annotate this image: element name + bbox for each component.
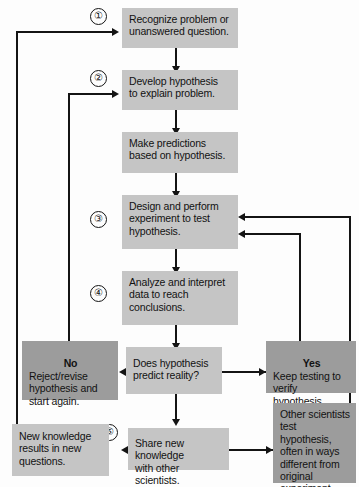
node-make-predictions: Make predictions based on hypothesis. — [122, 132, 238, 173]
node-share-knowledge: Share new knowledge with other scientist… — [128, 428, 229, 470]
step-number-2: ② — [90, 70, 107, 87]
node-analyze-data: Analyze and interpret data to reach conc… — [122, 271, 238, 325]
arrowhead-right-yes-box — [259, 368, 266, 376]
arrowhead-left-no-box — [119, 368, 126, 376]
node-outcome-no-header: No — [29, 357, 112, 369]
node-recognize-problem: Recognize problem or unanswered question… — [122, 8, 238, 48]
step-number-1: ① — [90, 8, 107, 25]
arrowhead-down-share — [172, 419, 180, 426]
arrowhead-right-hypothesis — [112, 90, 119, 98]
node-decision-predict-reality: Does hypothesis predict reality? — [126, 347, 222, 394]
feedback-line-vertical-yes-box — [299, 233, 301, 352]
step-number-3: ③ — [90, 211, 107, 228]
feedback-line-horizontal-yes-to-experiment — [245, 233, 301, 235]
node-new-knowledge: New knowledge results in new questions. — [12, 424, 109, 476]
node-outcome-yes: YesKeep testing to verify hypothesis. — [266, 341, 356, 393]
step-number-4: ④ — [90, 285, 107, 302]
node-design-experiment: Design and perform experiment to test hy… — [122, 195, 238, 249]
feedback-line-vertical-new-knowledge — [16, 31, 18, 432]
node-outcome-no: NoReject/revise hypothesis and start aga… — [22, 341, 118, 400]
arrowhead-left-experiment-from-yes — [238, 230, 245, 238]
feedback-line-horizontal-to-hypothesis — [68, 93, 116, 95]
node-outcome-no-body: Reject/revise hypothesis and start again… — [29, 370, 98, 407]
feedback-line-vertical-no-box — [68, 93, 70, 350]
feedback-line-horizontal-other-to-experiment — [245, 216, 351, 218]
node-other-scientists: Other scientists test hypothesis, often … — [273, 403, 356, 483]
node-outcome-yes-header: Yes — [273, 357, 350, 369]
arrowhead-left-experiment-from-other — [238, 213, 245, 221]
arrowhead-right-other-scientists — [266, 446, 273, 454]
arrowhead-right-recognize — [112, 28, 119, 36]
scientific-method-flowchart: ① ② ③ ④ ⑤ Recognize problem or unanswere… — [0, 0, 359, 487]
node-outcome-yes-body: Keep testing to verify hypothesis. — [273, 370, 341, 407]
feedback-line-horizontal-to-recognize — [16, 31, 116, 33]
node-develop-hypothesis: Develop hypothesis to explain problem. — [122, 70, 238, 110]
arrowhead-left-new-knowledge — [121, 446, 128, 454]
